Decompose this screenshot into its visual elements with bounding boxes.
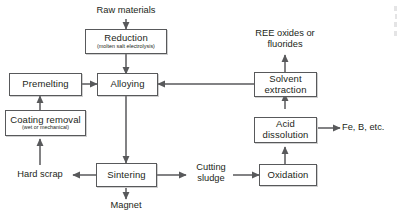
diagram-canvas: Reduction (molten salt electrolysis) Pre…: [0, 0, 398, 215]
node-coating-removal-title: Coating removal: [10, 115, 81, 125]
label-hard-scrap: Hard scrap: [7, 169, 73, 180]
label-ree-oxides: REE oxides or fluorides: [251, 28, 319, 49]
node-premelting-title: Premelting: [22, 79, 68, 89]
node-oxidation-title: Oxidation: [268, 170, 309, 180]
node-reduction-title: Reduction: [104, 33, 148, 43]
node-sintering-title: Sintering: [107, 170, 145, 180]
node-oxidation[interactable]: Oxidation: [259, 164, 317, 186]
node-reduction-subtitle: (molten salt electrolysis): [97, 44, 155, 50]
node-alloying-title: Alloying: [110, 79, 144, 89]
label-fe-b-etc: Fe, B, etc.: [342, 122, 396, 133]
node-reduction[interactable]: Reduction (molten salt electrolysis): [85, 29, 167, 54]
label-magnet: Magnet: [99, 200, 153, 211]
node-coating-removal[interactable]: Coating removal (wet or mechanical): [5, 110, 86, 136]
node-acid-dissolution[interactable]: Acid dissolution: [254, 117, 317, 143]
label-cutting-sludge: Cutting sludge: [189, 162, 233, 183]
label-raw-materials: Raw materials: [84, 5, 168, 16]
node-coating-removal-subtitle: (wet or mechanical): [22, 125, 69, 131]
node-acid-dissolution-title: Acid dissolution: [255, 119, 316, 140]
clipped-margin-text: [371, 6, 397, 42]
node-sintering[interactable]: Sintering: [96, 163, 157, 187]
node-premelting[interactable]: Premelting: [9, 73, 82, 96]
node-solvent-extraction[interactable]: Solvent extraction: [254, 72, 317, 97]
node-solvent-extraction-title: Solvent extraction: [255, 74, 316, 95]
node-alloying[interactable]: Alloying: [97, 73, 158, 96]
